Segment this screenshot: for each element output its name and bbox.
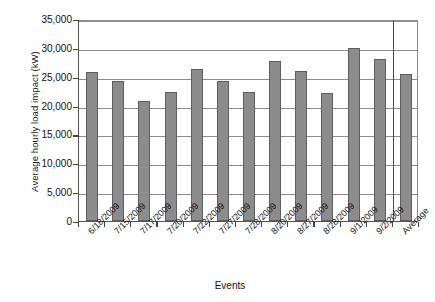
x-axis-tick-labels: 6/18/20097/15/20097/17/20097/20/20097/22… bbox=[0, 0, 435, 302]
bar-chart-figure: Average hourly load impact (kW) 35,00030… bbox=[0, 0, 435, 302]
x-axis-title: Events bbox=[150, 280, 310, 291]
